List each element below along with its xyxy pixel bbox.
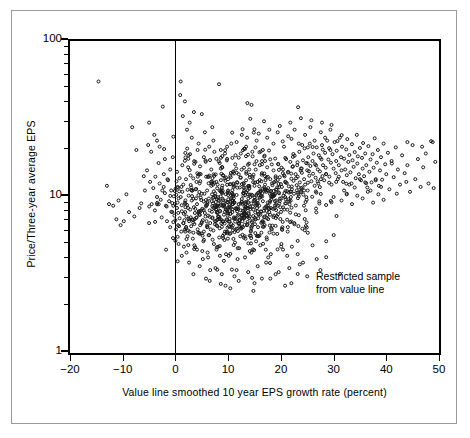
annotation-line-1: Restricted sample — [316, 270, 400, 283]
x-axis-tick-label: 40 — [366, 363, 406, 375]
x-axis-title: Value line smoothed 10 year EPS growth r… — [68, 386, 441, 398]
x-axis-tick — [281, 355, 282, 361]
x-axis-ticks: −20−1001020304050 — [0, 355, 470, 365]
x-axis-tick — [123, 355, 124, 361]
x-axis-tick — [334, 355, 335, 361]
x-axis-tick — [228, 355, 229, 361]
x-axis-tick — [175, 355, 176, 361]
x-axis-tick-label: 30 — [314, 363, 354, 375]
plot-area — [68, 39, 441, 355]
x-axis-tick — [386, 355, 387, 361]
x-axis-tick-label: 0 — [155, 363, 195, 375]
x-axis-tick-label: 10 — [208, 363, 248, 375]
x-axis-tick-label: −20 — [50, 363, 90, 375]
y-axis-major-tick — [61, 194, 68, 196]
x-axis-tick-label: 50 — [419, 363, 459, 375]
y-axis-major-tick — [61, 38, 68, 40]
x-axis-tick — [439, 355, 440, 361]
annotation-line-2: from value line — [316, 283, 400, 296]
y-axis-title: Price/Three-year average EPS — [25, 94, 37, 294]
x-axis-tick — [70, 355, 71, 361]
x-axis-tick-label: 20 — [261, 363, 301, 375]
y-axis-major-tick — [61, 350, 68, 352]
x-axis-tick-label: −10 — [103, 363, 143, 375]
chart-page: 100 10 1 −20−1001020304050 Value line sm… — [0, 0, 470, 438]
chart-annotation: Restricted sample from value line — [316, 270, 400, 296]
scatter-points — [70, 41, 439, 353]
